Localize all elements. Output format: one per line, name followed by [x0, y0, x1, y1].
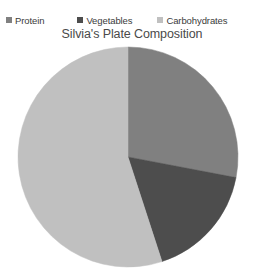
pie-chart-figure: Protein Vegetables Carbohydrates Silvia'…: [0, 0, 264, 279]
pie-slice-protein[interactable]: [128, 47, 238, 178]
pie-plot-area: [0, 0, 264, 279]
pie-slice-group: [18, 47, 238, 267]
pie-svg: [0, 0, 264, 279]
